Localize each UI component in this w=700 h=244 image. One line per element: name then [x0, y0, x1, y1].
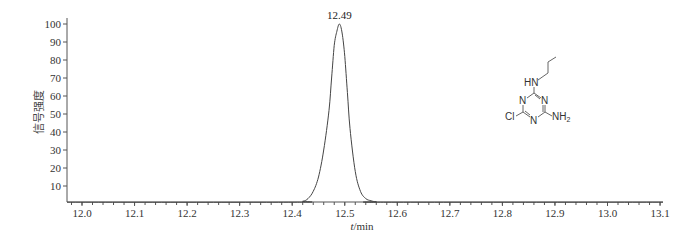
label-n-left: N: [519, 95, 526, 106]
label-cl: Cl: [505, 111, 514, 122]
x-tick-label: 12.7: [440, 207, 460, 219]
chemical-structure-inset: HN N N N Cl NH2: [505, 57, 570, 126]
ring-bond-bottom-right: [538, 112, 545, 117]
y-tick-label: 100: [45, 18, 62, 30]
x-tick-label: 12.8: [493, 207, 513, 219]
chromatogram-trace: [67, 24, 663, 202]
label-n-right: N: [541, 95, 548, 106]
axes: [67, 18, 663, 202]
y-tick-label: 40: [50, 126, 62, 138]
x-axis-ticks: 12.012.112.212.312.412.512.612.712.812.9…: [71, 202, 669, 219]
x-tick-label: 12.6: [388, 207, 408, 219]
peak-label: 12.49: [327, 9, 352, 21]
y-tick-label: 90: [50, 36, 62, 48]
y-axis-label: 信号强度: [32, 90, 46, 134]
x-axis-label-unit: /min: [353, 220, 374, 232]
y-tick-label: 20: [50, 162, 62, 174]
label-nh2: NH2: [552, 111, 570, 123]
y-tick-label: 70: [50, 72, 62, 84]
triazine-ring: [527, 93, 534, 98]
x-tick-label: 12.0: [72, 207, 92, 219]
label-hn: HN: [524, 77, 538, 88]
y-tick-label: 50: [50, 108, 62, 120]
x-tick-label: 13.0: [598, 207, 618, 219]
y-tick-label: 30: [50, 144, 62, 156]
x-tick-label: 12.9: [545, 207, 565, 219]
x-tick-label: 13.1: [650, 207, 669, 219]
y-axis-ticks: 102030405060708090100: [45, 18, 68, 192]
x-tick-label: 12.4: [283, 207, 303, 219]
chromatogram-chart: 102030405060708090100 12.012.112.212.312…: [0, 0, 700, 244]
x-axis-label: t/min: [350, 220, 374, 232]
ethyl-bond: [538, 57, 556, 80]
y-tick-label: 80: [50, 54, 62, 66]
y-tick-label: 60: [50, 90, 62, 102]
amino-bond: [545, 112, 552, 116]
x-tick-label: 12.2: [177, 207, 196, 219]
x-tick-label: 12.3: [230, 207, 250, 219]
x-tick-label: 12.5: [335, 207, 355, 219]
x-tick-label: 12.1: [125, 207, 144, 219]
y-tick-label: 10: [50, 180, 62, 192]
label-n-bottom: N: [530, 115, 537, 126]
chloro-bond: [516, 112, 523, 116]
